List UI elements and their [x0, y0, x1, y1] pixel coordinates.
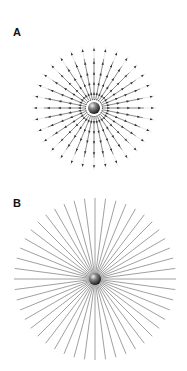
field-diagram	[0, 0, 187, 371]
panel-a-radial-arrows	[32, 46, 156, 170]
panel-b-radial-lines	[14, 198, 176, 360]
